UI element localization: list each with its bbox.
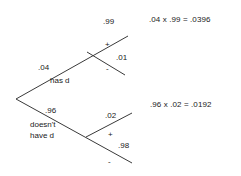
- sign-has-d-negative: -: [106, 64, 109, 73]
- label-doesnt-have-d-line1: doesn't: [30, 120, 56, 129]
- sign-doesnt-have-d-negative: -: [108, 157, 111, 166]
- prob-has-d: .04: [38, 63, 49, 72]
- result-has-d-positive: .04 x .99 = .0396: [149, 15, 211, 24]
- branch-has-d: [16, 36, 128, 99]
- prob-has-d-negative: .01: [116, 53, 127, 62]
- prob-doesnt-have-d: .96: [45, 106, 56, 115]
- prob-doesnt-have-d-negative: .98: [118, 141, 129, 150]
- prob-has-d-positive: .99: [103, 17, 114, 26]
- label-doesnt-have-d-line2: have d: [30, 131, 54, 140]
- label-has-d: has d: [50, 76, 70, 85]
- probability-tree-diagram: .04 has d .99 + .01 - .04 x .99 = .0396 …: [0, 0, 241, 176]
- sign-has-d-positive: +: [105, 40, 110, 49]
- prob-doesnt-have-d-positive: .02: [105, 111, 116, 120]
- result-doesnt-have-d-positive: .96 x .02 = .0192: [150, 100, 212, 109]
- sign-doesnt-have-d-positive: +: [108, 130, 113, 139]
